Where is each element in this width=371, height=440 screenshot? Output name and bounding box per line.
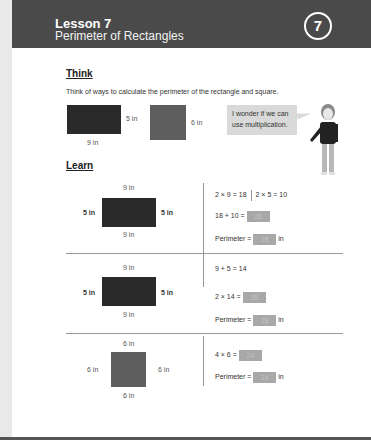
row1-line2: 18 + 10 = 28 [215,211,270,222]
speech-bubble: I wonder if we can use multiplication. [227,105,297,135]
row3-perimeter-box[interactable]: 24 [253,372,276,383]
row1-line2-text: 18 + 10 = [215,212,245,219]
think-rectangle [67,105,121,134]
think-rect-height-label: 5 in [126,115,137,122]
row2-line2: 2 × 14 = 28 [215,292,266,303]
unit-label: in [278,373,283,380]
learn-heading: Learn [66,160,93,171]
textbook-page [12,0,371,437]
think-prompt: Think of ways to calculate the perimeter… [66,88,278,95]
think-square-side-label: 6 in [191,119,202,126]
rect1-right-label: 5 in [161,209,173,216]
rect1-left-label: 5 in [83,209,95,216]
square [111,352,146,387]
rect1-top-label: 9 in [123,184,134,191]
square-top-label: 6 in [123,340,134,347]
lesson-header: Lesson 7 Perimeter of Rectangles 7 [12,0,371,48]
unit-label: in [278,316,283,323]
square-left-label: 6 in [87,366,98,373]
row3-answer-box[interactable]: 24 [239,350,262,361]
rect2-bottom-label: 9 in [123,311,134,318]
rect1-bottom-label: 9 in [123,231,134,238]
row1-line1: 2 × 9 = 182 × 5 = 10 [215,190,287,201]
row2-answer-box[interactable]: 28 [243,292,266,303]
table-divider-vertical [203,336,204,386]
think-rect-width-label: 9 in [87,139,98,146]
table-divider-vertical [203,183,204,287]
think-square [150,105,186,140]
rect2-left-label: 5 in [83,289,95,296]
square-bottom-label: 6 in [123,392,134,399]
square-right-label: 6 in [158,366,169,373]
table-row-divider [66,333,343,334]
perimeter-label: Perimeter = [215,316,251,323]
rect2-top-label: 9 in [123,264,134,271]
lesson-badge: 7 [304,12,332,40]
row3-perimeter: Perimeter = 24 in [215,372,284,383]
perimeter-label: Perimeter = [215,373,251,380]
row1-perimeter-box[interactable]: 28 [253,234,276,245]
rect2 [102,277,156,306]
lesson-title: Perimeter of Rectangles [55,29,184,43]
row3-line1: 4 × 6 = 24 [215,350,262,361]
table-row-divider [66,253,343,254]
row2-perimeter: Perimeter = 28 in [215,315,284,326]
student-character-icon [308,102,344,176]
row1-answer-box[interactable]: 28 [247,211,270,222]
row1-perimeter: Perimeter = 28 in [215,234,284,245]
row2-perimeter-box[interactable]: 28 [253,315,276,326]
perimeter-label: Perimeter = [215,235,251,242]
rect1 [102,198,156,227]
separator [251,190,252,201]
rect2-right-label: 5 in [161,289,173,296]
row1-eq-a: 2 × 9 = 18 [215,191,247,198]
unit-label: in [278,235,283,242]
row2-line1: 9 + 5 = 14 [215,265,247,272]
row2-line2-text: 2 × 14 = [215,293,241,300]
row3-line1-text: 4 × 6 = [215,351,237,358]
row1-eq-b: 2 × 5 = 10 [256,191,288,198]
think-heading: Think [66,68,93,79]
